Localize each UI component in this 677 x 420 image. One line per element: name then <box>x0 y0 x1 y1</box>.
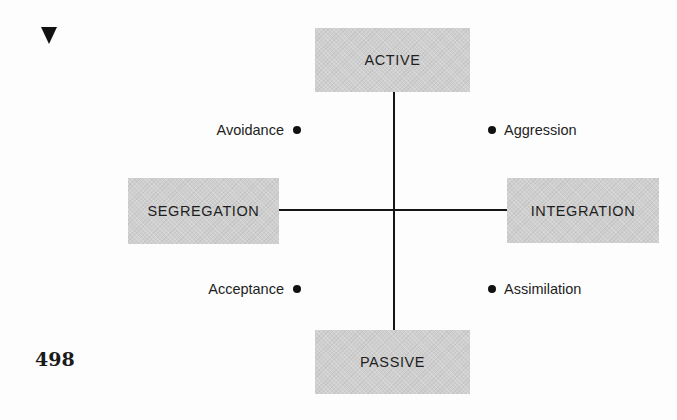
pole-box-active: ACTIVE <box>315 28 470 92</box>
pole-box-integration: INTEGRATION <box>507 178 659 243</box>
quadrant-aggression: Aggression <box>488 120 577 140</box>
quadrant-avoidance: Avoidance <box>217 120 301 140</box>
bullet-dot-icon <box>293 126 301 134</box>
quadrant-assimilation: Assimilation <box>488 279 581 299</box>
vertical-axis-line <box>393 92 395 330</box>
quadrant-label-avoidance: Avoidance <box>217 122 284 138</box>
pole-label-active: ACTIVE <box>365 52 421 68</box>
diagram-page: 498 ACTIVE PASSIVE SEGREGATION INTEGRATI… <box>0 0 677 420</box>
quadrant-label-aggression: Aggression <box>504 122 577 138</box>
quadrant-label-assimilation: Assimilation <box>504 281 581 297</box>
bullet-dot-icon <box>488 126 496 134</box>
down-triangle-icon <box>41 27 57 44</box>
horizontal-axis-line <box>279 209 507 211</box>
pole-label-segregation: SEGREGATION <box>148 203 260 219</box>
quadrant-label-acceptance: Acceptance <box>208 281 284 297</box>
pole-box-passive: PASSIVE <box>315 330 470 394</box>
page-number: 498 <box>35 348 75 370</box>
bullet-dot-icon <box>488 285 496 293</box>
pole-box-segregation: SEGREGATION <box>128 178 279 244</box>
quadrant-acceptance: Acceptance <box>208 279 301 299</box>
bullet-dot-icon <box>293 285 301 293</box>
pole-label-integration: INTEGRATION <box>531 203 636 219</box>
pole-label-passive: PASSIVE <box>360 354 425 370</box>
